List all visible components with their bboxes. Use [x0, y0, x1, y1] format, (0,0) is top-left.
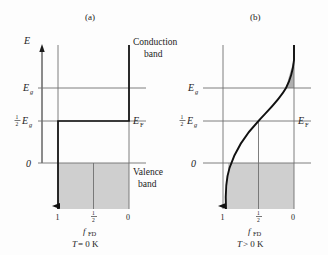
svg-text:Valence: Valence — [133, 167, 163, 177]
svg-text:2: 2 — [92, 217, 95, 223]
level-label-zero-b: 0 — [191, 158, 196, 169]
panel-title-b: (b) — [250, 12, 261, 22]
svg-text:F: F — [140, 121, 144, 128]
svg-text:band: band — [144, 49, 163, 59]
level-label-half-eg-a: 1 2 E g — [15, 114, 34, 128]
svg-text:FD: FD — [88, 230, 97, 237]
svg-text:g: g — [195, 88, 199, 95]
svg-text:E: E — [132, 115, 139, 126]
panel-a: E E F E g 1 — [15, 12, 178, 249]
svg-text:1: 1 — [92, 210, 95, 216]
level-label-eg-a: E g — [22, 82, 34, 95]
x-tick-label-zero-a: 0 — [126, 213, 130, 222]
svg-text:> 0 K: > 0 K — [243, 239, 264, 249]
energy-axis-a — [39, 44, 44, 163]
x-tick-label-one-a: 1 — [56, 213, 60, 222]
figure-canvas: E E F E g 1 — [0, 0, 328, 255]
fermi-level-label-a: E F — [132, 115, 144, 128]
fd-curve-arrow-a — [52, 203, 60, 209]
svg-text:F: F — [305, 121, 309, 128]
svg-text:g: g — [30, 88, 34, 95]
panel-b: E F E g 1 2 E g 0 1 1 2 — [180, 12, 312, 249]
svg-text:= 0 K: = 0 K — [78, 239, 99, 249]
fd-curve-arrow-b — [218, 203, 226, 209]
level-label-eg-b: E g — [187, 82, 199, 95]
condition-label-b: T > 0 K — [237, 239, 264, 249]
energy-axis-label-a: E — [23, 35, 30, 46]
svg-text:2: 2 — [257, 217, 260, 223]
svg-text:E: E — [187, 82, 194, 93]
shaded-region-valence-band-filled-b — [226, 163, 294, 209]
x-tick-label-half-a: 1 2 — [91, 210, 97, 223]
svg-text:2: 2 — [16, 121, 19, 127]
condition-label-a: T = 0 K — [72, 239, 99, 249]
x-tick-label-zero-b: 0 — [291, 213, 295, 222]
conduction-band-label-a: Conduction band — [133, 37, 178, 59]
valence-band-label-a: Valence band — [133, 167, 163, 189]
panel-title-a: (a) — [85, 12, 95, 22]
fermi-dirac-figure: E E F E g 1 — [0, 0, 328, 255]
svg-text:FD: FD — [253, 230, 262, 237]
level-label-zero-a: 0 — [26, 158, 31, 169]
x-axis-label-a: f FD — [83, 226, 97, 237]
svg-text:f: f — [83, 226, 87, 236]
svg-text:E: E — [297, 115, 304, 126]
svg-text:f: f — [248, 226, 252, 236]
svg-text:E: E — [21, 115, 28, 126]
svg-text:g: g — [194, 121, 198, 128]
x-tick-label-half-b: 1 2 — [256, 210, 262, 223]
svg-text:band: band — [138, 179, 157, 189]
svg-text:1: 1 — [181, 114, 184, 120]
svg-text:Conduction: Conduction — [133, 37, 178, 47]
svg-text:1: 1 — [257, 210, 260, 216]
svg-text:1: 1 — [16, 114, 19, 120]
level-label-half-eg-b: 1 2 E g — [180, 114, 199, 128]
x-tick-label-one-b: 1 — [221, 213, 225, 222]
fermi-level-label-b: E F — [297, 115, 309, 128]
svg-text:2: 2 — [181, 121, 184, 127]
svg-text:E: E — [22, 82, 29, 93]
svg-text:E: E — [186, 115, 193, 126]
x-axis-label-b: f FD — [248, 226, 262, 237]
svg-text:g: g — [29, 121, 33, 128]
